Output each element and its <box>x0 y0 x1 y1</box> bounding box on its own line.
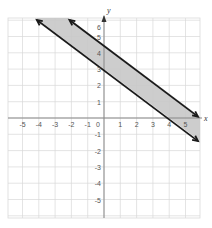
svg-text:-4: -4 <box>36 121 42 128</box>
svg-text:-4: -4 <box>95 180 101 187</box>
svg-text:2: 2 <box>97 82 101 89</box>
svg-text:0: 0 <box>96 121 100 128</box>
svg-text:5: 5 <box>184 121 188 128</box>
svg-text:-1: -1 <box>85 121 91 128</box>
svg-text:6: 6 <box>97 24 101 31</box>
svg-text:2: 2 <box>135 121 139 128</box>
svg-text:3: 3 <box>151 121 155 128</box>
svg-text:-3: -3 <box>95 164 101 171</box>
svg-text:1: 1 <box>118 121 122 128</box>
svg-text:-5: -5 <box>95 197 101 204</box>
svg-text:3: 3 <box>97 66 101 73</box>
svg-text:4: 4 <box>97 50 101 57</box>
svg-text:1: 1 <box>97 99 101 106</box>
svg-text:-5: -5 <box>19 121 25 128</box>
x-axis-label: x <box>203 114 208 123</box>
svg-text:4: 4 <box>167 121 171 128</box>
svg-text:-2: -2 <box>95 148 101 155</box>
svg-text:5: 5 <box>97 34 101 41</box>
svg-text:-2: -2 <box>68 121 74 128</box>
coordinate-plane: -5-4-3-2-101234554321-1-2-3-4-56 x y <box>0 0 212 228</box>
svg-text:-3: -3 <box>52 121 58 128</box>
svg-text:-1: -1 <box>95 131 101 138</box>
y-axis-label: y <box>106 6 111 15</box>
